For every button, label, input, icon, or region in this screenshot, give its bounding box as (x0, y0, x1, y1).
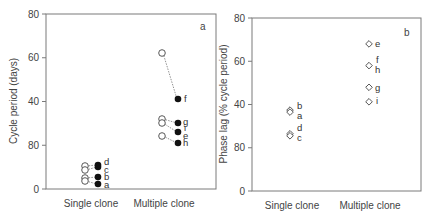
chart-a-ytick-3: 60 (28, 52, 40, 63)
chart-a-panel-label: a (200, 21, 206, 32)
chart-a-ytick-1: 80 (28, 140, 40, 151)
chart-b-point-labels: b a d c e f h g i (297, 38, 380, 143)
chart-a-frame (46, 14, 216, 189)
chart-b-xcat-single: Single clone (265, 200, 320, 211)
chart-b-ytick-3: 60 (234, 56, 246, 67)
label-g: g (375, 82, 380, 93)
chart-a-ytick-4: 80 (28, 9, 40, 20)
chart-b-panel-label: b (404, 27, 410, 38)
chart-a-xcat-single: Single clone (64, 198, 119, 209)
chart-a-ytick-0: 0 (33, 184, 39, 195)
chart-b-ytick-0: 0 (239, 186, 245, 197)
chart-a-yaxis (42, 14, 46, 189)
label-f: f (184, 93, 187, 104)
label-e: e (375, 38, 380, 49)
label-h: h (375, 64, 380, 75)
chart-b: 0 80 40 60 80 Phase lag (% cycle period)… (218, 13, 421, 212)
chart-b-ytick-2: 40 (234, 99, 246, 110)
label-i: i (376, 95, 378, 106)
chart-b-ytick-1: 80 (234, 142, 246, 153)
chart-b-frame (252, 18, 421, 191)
label-h: h (183, 137, 188, 148)
chart-a: 0 80 40 60 80 Cycle period (days) Single… (8, 9, 216, 210)
figure: 0 80 40 60 80 Cycle period (days) Single… (0, 0, 428, 215)
chart-b-ylabel: Phase lag (% cycle period) (218, 45, 229, 164)
label-a: a (297, 110, 303, 121)
chart-b-yaxis (248, 18, 252, 191)
chart-a-open-markers (82, 50, 166, 185)
chart-b-xcat-multiple: Multiple clone (339, 200, 401, 211)
chart-b-ytick-4: 80 (234, 13, 246, 24)
chart-a-xcat-multiple: Multiple clone (133, 198, 195, 209)
chart-a-ylabel: Cycle period (days) (8, 58, 19, 144)
label-c: c (297, 132, 302, 143)
chart-a-ytick-2: 40 (28, 96, 40, 107)
label-a: a (104, 179, 110, 190)
